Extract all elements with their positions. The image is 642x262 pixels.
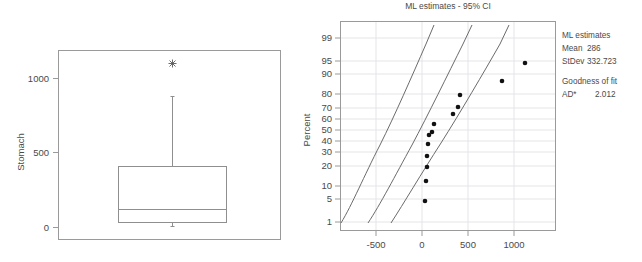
data-point xyxy=(456,105,461,110)
probplot-x-tick-500: 500 xyxy=(460,239,476,250)
probplot-y-axis-title: Percent xyxy=(301,113,312,146)
data-point xyxy=(500,79,505,84)
probability-plot-panel: ML estimates - 95% CI Percent xyxy=(300,0,642,262)
probplot-y-tick-40: 40 xyxy=(321,135,332,146)
boxplot-panel: Stomach 1000 500 0 xyxy=(0,0,300,262)
probplot-fit-line xyxy=(368,25,472,223)
data-point xyxy=(430,130,435,135)
boxplot-y-tick-0: 0 xyxy=(44,222,49,233)
probplot-y-tick-70: 70 xyxy=(321,102,332,113)
probability-plot-svg: ML estimates - 95% CI Percent xyxy=(300,0,642,262)
boxplot-outlier-marker xyxy=(169,60,177,68)
legend-ad-label: AD* xyxy=(562,90,577,99)
probplot-legend: ML estimates Mean 286 StDev 332.723 Good… xyxy=(562,31,618,99)
data-point xyxy=(458,93,463,98)
data-point xyxy=(451,112,456,117)
probplot-y-tick-20: 20 xyxy=(321,160,332,171)
probplot-data-points xyxy=(423,61,528,204)
probplot-x-ticks: -500 0 500 1000 xyxy=(366,231,524,250)
probplot-y-tick-90: 90 xyxy=(321,68,332,79)
probplot-title: ML estimates - 95% CI xyxy=(405,1,491,11)
probplot-x-tick-0: 0 xyxy=(419,239,424,250)
data-point xyxy=(523,61,528,66)
probplot-y-tick-10: 10 xyxy=(321,180,332,191)
probplot-x-tick-1000: 1000 xyxy=(503,239,524,250)
boxplot-y-axis-title: Stomach xyxy=(15,133,26,171)
data-point xyxy=(424,179,429,184)
figure-root: Stomach 1000 500 0 xyxy=(0,0,642,262)
legend-stdev-value: 332.723 xyxy=(587,57,617,66)
probplot-lower-ci-curve xyxy=(341,25,434,223)
probplot-y-tick-50: 50 xyxy=(321,124,332,135)
boxplot-frame xyxy=(59,51,281,240)
boxplot-box xyxy=(119,167,227,223)
probplot-horizontal-gridlines xyxy=(341,38,555,222)
probplot-x-tick-neg500: -500 xyxy=(366,239,385,250)
legend-ad-value: 2.012 xyxy=(595,90,616,99)
probplot-y-ticks: 99 95 90 80 70 60 50 40 30 20 10 5 1 xyxy=(321,32,340,227)
legend-mean-label: Mean xyxy=(562,44,583,53)
probplot-y-tick-80: 80 xyxy=(321,88,332,99)
data-point xyxy=(426,142,431,147)
boxplot-svg: Stomach 1000 500 0 xyxy=(0,0,300,262)
probplot-upper-ci-curve xyxy=(391,25,509,223)
probplot-y-tick-30: 30 xyxy=(321,146,332,157)
boxplot-y-tick-1000: 1000 xyxy=(28,73,49,84)
legend-goodness-of-fit-heading: Goodness of fit xyxy=(562,77,618,86)
probplot-y-tick-60: 60 xyxy=(321,113,332,124)
legend-mean-value: 286 xyxy=(587,44,601,53)
probplot-y-tick-1: 1 xyxy=(327,216,332,227)
legend-stdev-label: StDev xyxy=(562,57,585,66)
legend-ml-estimates-heading: ML estimates xyxy=(562,31,610,40)
boxplot-y-tick-500: 500 xyxy=(33,147,49,158)
data-point xyxy=(425,165,430,170)
probplot-y-tick-95: 95 xyxy=(321,55,332,66)
probplot-y-tick-99: 99 xyxy=(321,32,332,43)
data-point xyxy=(423,199,428,204)
probplot-y-tick-5: 5 xyxy=(327,193,332,204)
data-point xyxy=(425,154,430,159)
data-point xyxy=(432,122,437,127)
